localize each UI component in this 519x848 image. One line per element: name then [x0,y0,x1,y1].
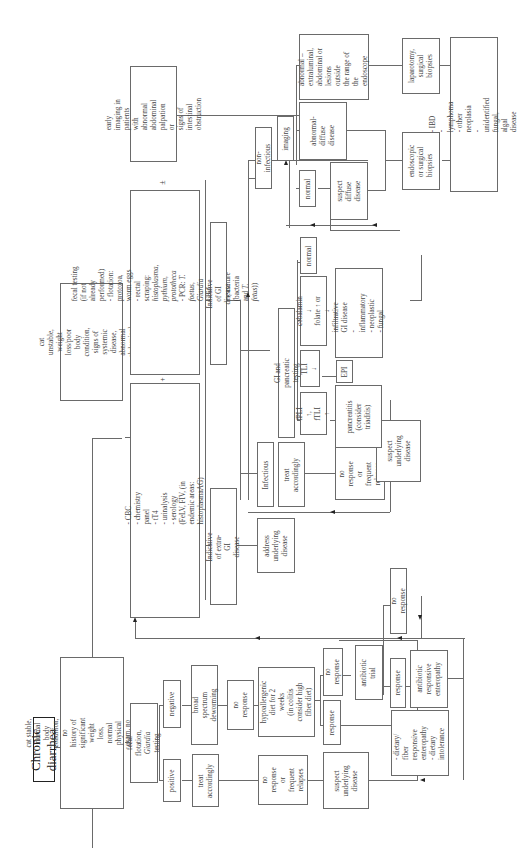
normal-box-2: normal [299,170,316,207]
tli-box: TLI ↓ [300,350,320,387]
connector [135,638,465,639]
connector [369,780,417,781]
antibiotic-outcome-box: antibiotic responsive enteropathy [410,650,448,708]
no-response-antibiotic-box: no response [390,568,407,634]
connector [347,130,385,131]
positive-box: positive [163,759,181,802]
epi-box: EPI [336,360,353,383]
arrow-icon [372,223,377,227]
plus-symbol: + [158,377,167,382]
abnormal-extraluminal-box: abnormal – extraluminal, abdominal or le… [299,34,369,100]
gi-pancreatic-box: GI and pancreatic testing [278,308,295,438]
fecal-testing-box: fecal testing (if not already performed)… [130,190,200,375]
connector [308,780,323,781]
connector [218,780,258,781]
arrow-icon [397,636,402,640]
connector [135,620,136,639]
treat-accordingly-box: treat accordingly [192,754,219,807]
non-infectious-box: non-infectious [255,127,272,189]
connector [463,638,464,780]
gi-disease-box: Indicative of GI disease [210,222,227,365]
address-underlying-box: address underlying disease [257,518,295,573]
antibiotic-trial-box: antibiotic trial [355,645,383,700]
cobalamin-box: cobalamin ↓ folate ↑ or ↓ [300,276,327,346]
connector [421,255,422,301]
connector [340,725,392,726]
labwork-box: - CBC - chemistry panel - tT4 - urinalys… [130,383,200,618]
connector [447,678,464,679]
fecal-flotation-box: fecal flotation, Giardia testing [130,703,158,783]
connector [330,230,400,231]
connector [248,160,249,500]
extra-gi-box: Indicative of extra-GI disease [210,488,237,605]
laparotomy-box: laparotomy, surgical biopsies [402,38,440,94]
abnormal-diffuse-box: abnormal- diffuse disease [299,102,347,160]
arrow-icon [418,615,422,620]
dietary-outcome-box: - dietary/ fiber responsive enteropathy … [391,710,449,776]
final-diagnosis-box: - IBD - lymphoma - other neoplasia - uni… [450,37,498,192]
endoscopic-biopsies-box: endoscopic or surgical biopsies [402,132,440,190]
arrow-icon [255,636,260,640]
infiltrative-box: infiltrative GI disease - inflammatory -… [335,268,383,358]
no-response-box: no response [227,680,254,730]
connector [343,675,351,676]
no-response-diet-box: no response [323,648,343,696]
connector [305,473,335,474]
imaging-box: imaging [277,116,294,161]
pancreatitis-box: pancreatitis (consider triaditis) [335,385,382,448]
suspect-diffuse-box: suspect diffuse disease [330,162,368,220]
connector [383,605,384,695]
connector [314,700,321,701]
deworming-box: broad spectrum deworming [191,665,218,745]
connector [240,350,270,351]
fpli-box: fPLI ↑, fTLI ↑ [300,392,327,435]
treat-accordingly-gi-box: treat accordingly [278,442,305,507]
response-diet-box: response [323,700,341,745]
connector [240,473,257,474]
connector [297,260,298,420]
connector [339,640,417,641]
early-imaging-box: early imaging in patients with abnormal … [130,66,177,162]
infectious-box: Infectious [257,442,274,507]
suspect-underlying-box: suspect underlying disease [323,752,369,809]
connector [240,300,241,500]
no-response-relapses-box: no response or frequent relapses [258,755,308,805]
arrow-icon [310,223,315,227]
connector [286,225,376,226]
arrow-icon [330,510,335,514]
negative-box: negative [163,680,181,728]
connector [318,188,330,189]
stable-condition-box: cat stable, normal body condition, no hi… [60,657,124,809]
suspect-underlying-gi-box: suspect underlying disease [376,420,421,482]
connector [248,512,390,513]
arrow-icon [420,778,425,782]
response-antibiotic-box: response [390,658,406,708]
diet-trial-box: hypoallergenic diet for 2 weeks (in coli… [258,667,315,737]
connector [92,438,122,439]
normal-box-1: normal [300,237,317,274]
plus-minus-symbol: ± [158,180,167,184]
